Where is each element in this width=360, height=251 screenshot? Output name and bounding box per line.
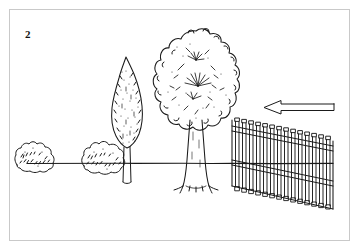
bush-left [15, 142, 54, 173]
tree-deciduous [153, 28, 239, 193]
bush-center [82, 141, 125, 174]
direction-arrow [264, 101, 334, 115]
figure-canvas: 2 [0, 0, 360, 251]
tree-columnar [112, 57, 143, 184]
scene-drawing [0, 0, 360, 251]
